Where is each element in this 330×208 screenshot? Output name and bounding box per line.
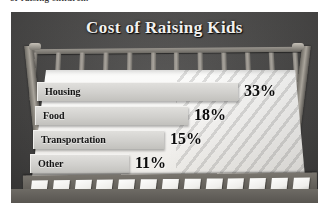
bar-chart: Housing 33% Food 18% Transportation 15% … [25,70,305,177]
bar-label-food: Food [36,110,65,121]
bar-value-transportation: 15% [170,130,202,148]
bar-label-transportation: Transportation [34,134,106,145]
bar-row-housing: Housing 33% [37,82,276,100]
cropped-caption: of raising children. [10,0,210,3]
bar-other: Other [30,154,129,173]
bar-housing: Housing [37,82,238,101]
photo-floor-area [11,189,318,203]
bar-label-other: Other [31,158,64,169]
bar-transportation: Transportation [33,130,164,149]
crib-post-cap-left [29,43,41,50]
bar-value-other: 11% [135,154,166,172]
bar-label-housing: Housing [38,86,81,97]
bar-food: Food [35,106,188,125]
bar-row-food: Food 18% [35,106,226,124]
bar-value-housing: 33% [244,82,276,100]
crib-post-cap-right [292,43,304,50]
bar-row-other: Other 11% [30,154,166,172]
infographic-photo: Cost of Raising Kids Housing 33% [11,12,318,203]
chart-title: Cost of Raising Kids [11,18,318,38]
cropped-caption-text: of raising children. [10,0,210,3]
bar-value-food: 18% [194,106,226,124]
bar-row-transportation: Transportation 15% [33,130,202,148]
